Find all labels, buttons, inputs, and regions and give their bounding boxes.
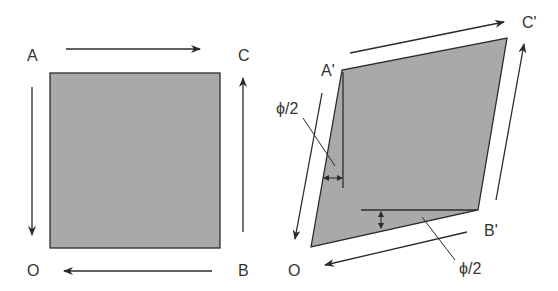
- shear-deformation-diagram: A C O B A' C' B' O ϕ/2 ϕ/2: [0, 0, 558, 291]
- sheared-parallelogram: [311, 38, 507, 247]
- left-figure: A C O B: [27, 47, 250, 279]
- angle-label-left: ϕ/2: [276, 100, 298, 117]
- label-b: B: [238, 262, 249, 279]
- right-figure: A' C' B' O ϕ/2 ϕ/2: [276, 14, 537, 279]
- label-a: A: [27, 47, 38, 64]
- label-a-prime: A': [321, 62, 335, 79]
- label-c: C: [238, 47, 250, 64]
- label-b-prime: B': [484, 222, 498, 239]
- undeformed-square: [50, 73, 220, 248]
- label-c-prime: C': [522, 14, 537, 31]
- label-o: O: [288, 262, 300, 279]
- label-o: O: [27, 262, 39, 279]
- angle-label-bottom: ϕ/2: [459, 260, 481, 277]
